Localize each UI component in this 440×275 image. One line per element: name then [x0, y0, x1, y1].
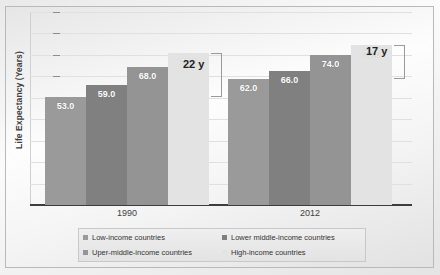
y-axis-tick — [53, 12, 60, 13]
gap-bracket-2012 — [394, 45, 405, 80]
chart-canvas: 53.059.068.075.062.066.074.079.0 22 y17 … — [0, 0, 440, 275]
bar[interactable]: 59.0 — [86, 85, 127, 205]
legend-item[interactable]: Low-income countries — [83, 233, 222, 242]
plot-area: 53.059.068.075.062.066.074.079.0 22 y17 … — [30, 12, 412, 205]
gridline — [30, 33, 412, 34]
bar[interactable]: 66.0 — [269, 71, 310, 205]
gridline — [30, 12, 412, 13]
legend-label: Lower middle-income countries — [231, 233, 335, 242]
bar[interactable]: 53.0 — [45, 97, 86, 205]
legend-item[interactable]: Uper-middle-income countries — [83, 248, 222, 257]
y-axis-tick — [53, 33, 60, 34]
chart-legend: Low-income countriesLower middle-income … — [78, 228, 366, 262]
bar[interactable]: 75.0 — [168, 53, 209, 205]
bar-value-label: 53.0 — [45, 101, 86, 111]
legend-item[interactable]: Lower middle-income countries — [222, 233, 361, 242]
bar-value-label: 74.0 — [310, 59, 351, 69]
bar-value-label: 68.0 — [127, 71, 168, 81]
bar-value-label: 62.0 — [228, 83, 269, 93]
bar-value-label: 66.0 — [269, 75, 310, 85]
bar-value-label: 59.0 — [86, 89, 127, 99]
y-axis-tick — [53, 76, 60, 77]
bar[interactable]: 62.0 — [228, 79, 269, 205]
bar[interactable]: 79.0 — [351, 45, 392, 205]
legend-label: High-income countries — [231, 248, 306, 257]
bar[interactable]: 74.0 — [310, 55, 351, 205]
x-axis-tick-label: 2012 — [228, 208, 392, 218]
bar[interactable]: 68.0 — [127, 67, 168, 205]
gap-bracket-1990-label: 22 y — [183, 58, 204, 70]
legend-swatch-icon — [83, 250, 88, 255]
y-axis-tick — [53, 55, 60, 56]
legend-swatch-icon — [222, 250, 227, 255]
gap-bracket-1990 — [211, 53, 222, 98]
legend-label: Uper-middle-income countries — [92, 248, 192, 257]
legend-label: Low-income countries — [92, 233, 165, 242]
y-axis-label: Life Expectancy (Years) — [14, 25, 24, 175]
x-axis-tick-label: 1990 — [45, 208, 209, 218]
legend-swatch-icon — [222, 235, 227, 240]
gap-bracket-2012-label: 17 y — [366, 45, 387, 57]
legend-item[interactable]: High-income countries — [222, 248, 361, 257]
legend-swatch-icon — [83, 235, 88, 240]
